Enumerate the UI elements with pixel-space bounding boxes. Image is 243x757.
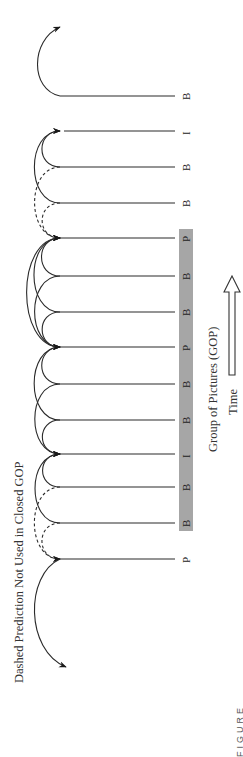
diagram-title: Dashed Prediction Not Used in Closed GOP (12, 461, 26, 683)
frame-label-i: I (180, 454, 192, 458)
frame-label-p: P (180, 345, 192, 351)
frame-label-b: B (180, 164, 192, 171)
gop-label: Group of Pictures (GOP) (206, 327, 220, 452)
frame-label-b: B (180, 417, 192, 424)
frame-lines: BIBBPBBPBBIBBP (60, 93, 192, 563)
frame-label-b: B (180, 273, 192, 280)
frame-label-b: B (180, 93, 192, 100)
dashed-prediction-arc (42, 523, 60, 559)
outer-prediction-arc-bottom (34, 559, 66, 667)
time-label: Time (226, 389, 240, 415)
outer-prediction-arc-top (38, 27, 61, 96)
frame-label-p: P (180, 236, 192, 242)
frame-label-i: I (180, 131, 192, 135)
frame-label-b: B (180, 520, 192, 527)
prediction-arc (35, 454, 60, 523)
gop-diagram: BIBBPBBPBBIBBP Dashed Prediction Not Use… (0, 0, 243, 757)
prediction-arc (42, 347, 60, 384)
prediction-arc (42, 420, 60, 454)
time-arrow-icon (224, 276, 240, 375)
frame-label-b: B (180, 484, 192, 491)
prediction-arcs (27, 131, 60, 559)
dashed-prediction-arc (42, 203, 60, 238)
frame-label-b: B (180, 381, 192, 388)
prediction-arc (42, 131, 60, 167)
frame-label-b: B (180, 309, 192, 316)
frame-label-b: B (180, 200, 192, 207)
figure-label: FIGURE (235, 705, 243, 757)
prediction-arc (27, 238, 60, 347)
prediction-arc (43, 454, 60, 487)
prediction-arc (34, 238, 60, 312)
frame-label-p: P (180, 557, 192, 563)
prediction-arc (35, 384, 60, 454)
